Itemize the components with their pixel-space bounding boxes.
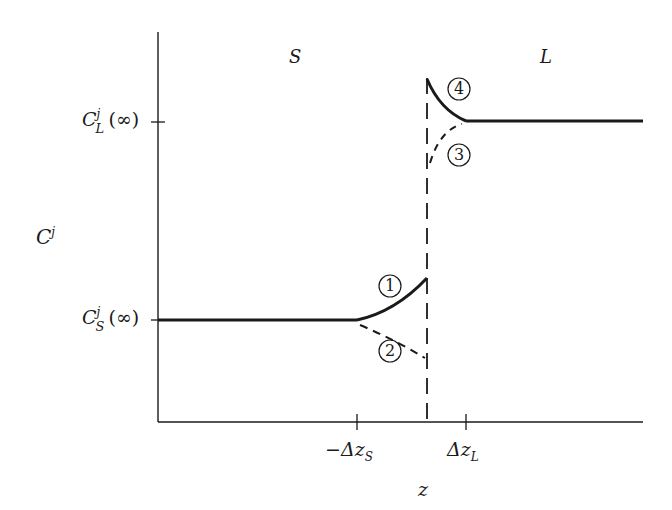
tick-sup: j [97,306,101,318]
curve-1-label: 1 [385,278,395,294]
tick-sub: L [471,450,479,464]
x-tick-label-dzl: ΔzL [447,440,479,463]
tick-sub: S [96,320,105,333]
tick-sub: S [365,450,373,464]
tick-sup: j [97,108,101,120]
tick-main: C [82,108,97,130]
y-axis-label-sup: j [51,225,55,239]
y-axis-label-main: C [36,225,51,249]
y-tick-label-cs: CjS(∞) [82,308,139,327]
region-liquid-label: L [540,48,552,66]
tick-arg: (∞) [109,108,140,130]
y-axis-label: Cj [36,226,55,247]
x-tick-label-neg-dzs: −ΔzS [325,440,373,463]
x-axis-label: z [418,480,428,499]
y-tick-label-cl: CjL(∞) [82,110,139,129]
curve-3-label: 3 [454,147,464,163]
concentration-profile-diagram [0,0,672,510]
region-solid-label: S [289,48,301,66]
tick-scripts: jS [97,314,109,324]
tick-scripts: jL [97,116,109,126]
curve-4-label: 4 [454,81,464,97]
curve-2-label: 2 [385,343,395,359]
tick-sub: L [96,122,105,135]
tick-arg: (∞) [109,306,140,328]
tick-prefix: −Δz [325,438,365,460]
tick-prefix: Δz [447,438,471,460]
tick-main: C [82,306,97,328]
